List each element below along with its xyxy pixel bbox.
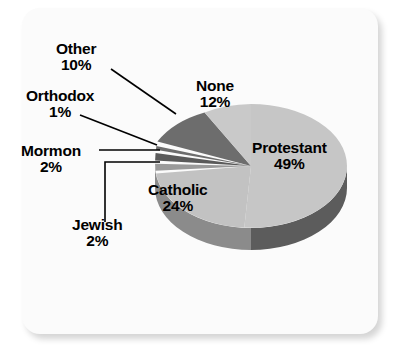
slice-label-orthodox-value: 1% (26, 104, 94, 120)
slice-label-protestant-value: 49% (252, 156, 327, 172)
slice-label-orthodox: Orthodox 1% (26, 88, 94, 120)
slice-label-catholic-name: Catholic (148, 182, 208, 198)
slice-label-jewish-value: 2% (72, 233, 123, 249)
slice-label-jewish-name: Jewish (72, 217, 123, 233)
slice-label-protestant: Protestant 49% (252, 140, 327, 172)
slice-label-mormon-value: 2% (21, 159, 81, 175)
slice-label-mormon-name: Mormon (21, 143, 81, 159)
slice-label-none-name: None (196, 78, 234, 94)
slice-label-none-value: 12% (196, 94, 234, 110)
slice-label-jewish: Jewish 2% (72, 217, 123, 249)
slice-label-orthodox-name: Orthodox (26, 88, 94, 104)
slice-label-catholic-value: 24% (148, 198, 208, 214)
slice-label-other: Other 10% (56, 41, 96, 73)
slice-label-protestant-name: Protestant (252, 140, 327, 156)
leader-line-other (111, 69, 176, 114)
slice-label-other-name: Other (56, 41, 96, 57)
slice-label-catholic: Catholic 24% (148, 182, 208, 214)
slice-label-mormon: Mormon 2% (21, 143, 81, 175)
slice-label-other-value: 10% (56, 57, 96, 73)
slice-label-none: None 12% (196, 78, 234, 110)
